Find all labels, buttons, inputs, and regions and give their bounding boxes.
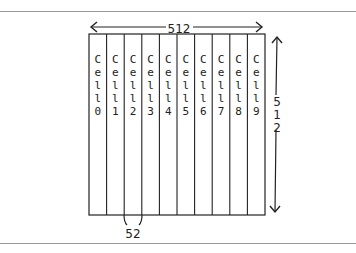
cell-label: Cell6: [200, 53, 207, 118]
cell-grid-diagram: 512 Cell0Cell1Cell2Cell3Cell4Cell5Cell6C…: [0, 0, 356, 253]
cell-label: Cell3: [147, 53, 154, 118]
height-dimension: 512: [270, 37, 282, 212]
svg-text:512: 512: [273, 95, 281, 135]
cell-label: Cell0: [94, 53, 101, 118]
cell-label: Cell8: [235, 53, 242, 118]
cell-label: Cell4: [165, 53, 172, 118]
cell-width-label: 52: [125, 227, 140, 241]
cell-columns: Cell0Cell1Cell2Cell3Cell4Cell5Cell6Cell7…: [94, 34, 259, 215]
cell-width-dimension: 52: [124, 215, 142, 241]
cell-label: Cell2: [130, 53, 137, 118]
cell-label: Cell5: [182, 53, 189, 118]
cell-label: Cell9: [253, 53, 260, 118]
height-label: 512: [273, 95, 281, 135]
cell-label: Cell1: [112, 53, 119, 118]
cell-label: Cell7: [218, 53, 225, 118]
